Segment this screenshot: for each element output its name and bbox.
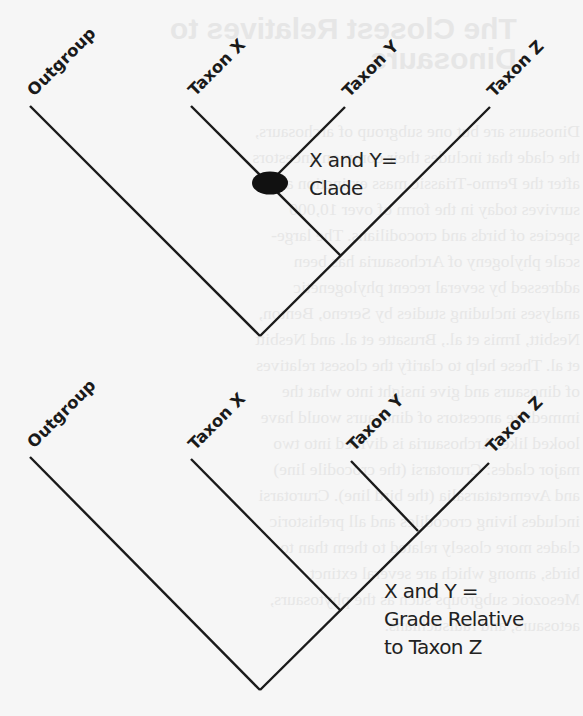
annotation-line: Clade xyxy=(309,174,397,202)
branch-taxon-z xyxy=(260,107,490,336)
grade-annotation: X and Y = Grade Relative to Taxon Z xyxy=(384,577,524,661)
label-outgroup: Outgroup xyxy=(23,376,99,452)
branch-taxon-y xyxy=(351,461,418,531)
annotation-line: to Taxon Z xyxy=(384,633,524,661)
branch-taxon-x xyxy=(191,459,341,611)
label-outgroup: Outgroup xyxy=(23,24,99,100)
branch-outgroup xyxy=(30,457,260,690)
clade-annotation: X and Y= Clade xyxy=(309,146,397,202)
label-taxon-y: Taxon Y xyxy=(343,390,408,455)
clade-node-marker xyxy=(252,172,288,195)
label-taxon-z: Taxon Z xyxy=(483,37,547,101)
annotation-line: Grade Relative xyxy=(384,605,524,633)
label-taxon-y: Taxon Y xyxy=(338,36,403,101)
label-taxon-x: Taxon X xyxy=(184,35,249,100)
label-taxon-x: Taxon X xyxy=(184,389,249,454)
label-taxon-z: Taxon Z xyxy=(482,393,546,457)
annotation-line: X and Y = xyxy=(384,577,524,605)
annotation-line: X and Y= xyxy=(309,146,397,174)
cladogram-clade: Outgroup Taxon X Taxon Y Taxon Z xyxy=(23,24,547,336)
